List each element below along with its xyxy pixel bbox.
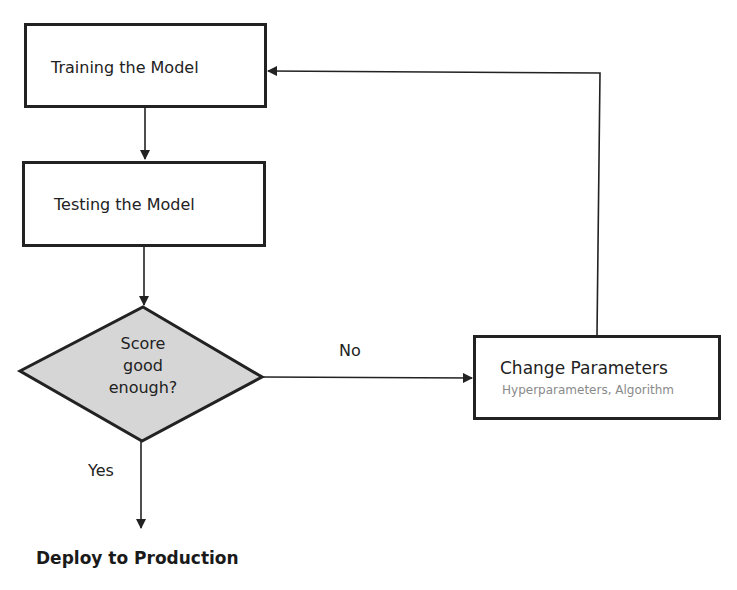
no-label: No	[339, 341, 361, 360]
decision-label: Score good enough?	[93, 333, 193, 399]
deploy-label: Deploy to Production	[36, 548, 239, 568]
arrow-change-to-training	[268, 71, 600, 335]
change-parameters-sublabel: Hyperparameters, Algorithm	[502, 383, 674, 397]
decision-line-1: Score	[93, 333, 193, 355]
arrow-no-to-change	[262, 377, 472, 378]
training-node: Training the Model	[24, 23, 267, 108]
training-label: Training the Model	[51, 58, 199, 77]
decision-line-3: enough?	[93, 377, 193, 399]
decision-line-2: good	[93, 355, 193, 377]
yes-label: Yes	[88, 461, 114, 480]
testing-label: Testing the Model	[54, 195, 195, 214]
testing-node: Testing the Model	[22, 161, 266, 247]
change-parameters-node: Change Parameters Hyperparameters, Algor…	[473, 335, 721, 420]
change-parameters-label: Change Parameters	[500, 358, 668, 378]
